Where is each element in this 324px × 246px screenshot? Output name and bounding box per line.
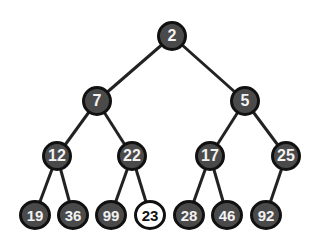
tree-leaf-highlighted: 23 [134,200,166,230]
tree-node: 22 [117,141,147,171]
tree-node: 7 [82,86,112,116]
tree-leaf: 92 [250,200,282,230]
tree-leaf: 19 [19,200,51,230]
tree-node: 17 [195,141,225,171]
tree-leaf: 46 [211,200,243,230]
tree-node-root: 2 [157,21,187,51]
tree-node: 25 [271,141,301,171]
tree-leaf: 36 [57,200,89,230]
tree-node: 12 [42,141,72,171]
tree-node: 5 [230,86,260,116]
tree-leaf: 99 [95,200,127,230]
tree-leaf: 28 [173,200,205,230]
